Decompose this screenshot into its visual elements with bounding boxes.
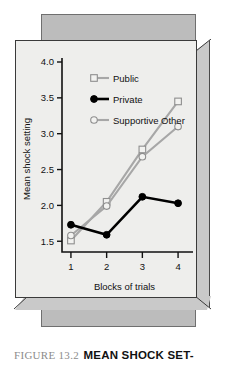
panel-bottom-bevel [15, 296, 211, 310]
series-supportive-other [68, 123, 182, 239]
y-tick-label: 3.0 [41, 128, 54, 139]
data-point [103, 231, 110, 238]
data-point [139, 193, 146, 200]
data-point [175, 98, 182, 105]
legend-marker [91, 117, 98, 124]
y-tick-label: 2.5 [41, 164, 54, 175]
caption-figure-title: MEAN SHOCK SET- [83, 349, 193, 361]
x-tick-label: 4 [175, 261, 180, 272]
legend-item: Private [91, 94, 143, 105]
data-point [68, 221, 75, 228]
caption-figure-number: FIGURE 13.2 [14, 349, 79, 361]
y-tick-label: 3.5 [41, 92, 54, 103]
y-tick-label: 1.5 [41, 236, 54, 247]
line-chart: 1.52.02.53.03.54.0Mean shock setting1234… [15, 40, 197, 298]
series-line [71, 197, 178, 235]
legend-marker [91, 96, 98, 103]
legend-label: Private [113, 94, 143, 105]
data-point [175, 200, 182, 207]
data-point [103, 203, 110, 210]
figure-caption: FIGURE 13.2 MEAN SHOCK SET- [0, 345, 227, 363]
legend-item: Public [91, 73, 139, 84]
x-tick-label: 3 [140, 261, 145, 272]
legend-label: Public [113, 73, 139, 84]
series-private [68, 193, 182, 238]
data-point [68, 232, 75, 239]
x-axis-title: Blocks of trials [94, 281, 155, 292]
chart-axes [62, 58, 193, 252]
x-tick-label: 1 [68, 261, 73, 272]
backdrop-slab-top [41, 14, 196, 42]
figure-illustration: 1.52.02.53.03.54.0Mean shock setting1234… [0, 0, 227, 335]
bevel-hairline-top-right [195, 39, 211, 52]
legend-label: Supportive Other [113, 115, 185, 126]
x-tick-label: 2 [104, 261, 109, 272]
legend-marker [91, 75, 98, 82]
y-axis-title: Mean shock setting [21, 118, 32, 200]
y-tick-label: 4.0 [41, 56, 54, 67]
panel-right-bevel [196, 40, 210, 308]
data-point [139, 153, 146, 160]
y-tick-label: 2.0 [41, 200, 54, 211]
legend-item: Supportive Other [91, 115, 185, 126]
series-line [71, 127, 178, 236]
data-point [139, 146, 146, 153]
